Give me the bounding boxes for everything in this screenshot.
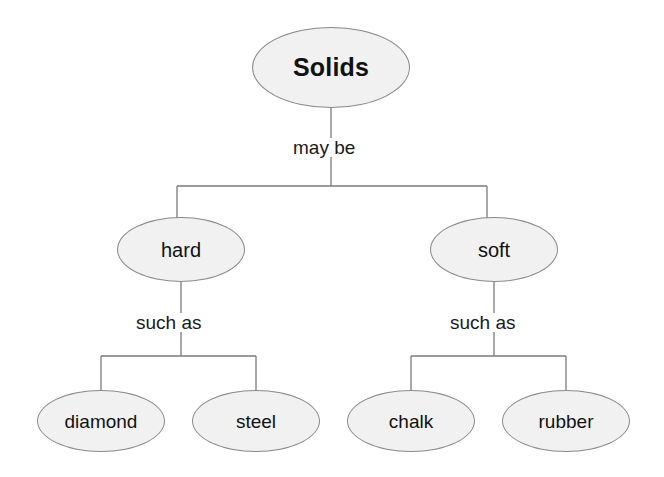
node-rubber[interactable]: rubber xyxy=(502,390,630,452)
node-chalk-label: chalk xyxy=(389,412,433,431)
node-rubber-label: rubber xyxy=(539,412,594,431)
node-soft-label: soft xyxy=(478,240,510,260)
node-hard[interactable]: hard xyxy=(117,217,245,282)
concept-map-canvas: Solids may be such as such as hard soft … xyxy=(0,0,664,477)
edge-label-may-be: may be xyxy=(290,138,358,157)
node-soft[interactable]: soft xyxy=(430,217,558,282)
node-steel-label: steel xyxy=(236,412,276,431)
node-diamond-label: diamond xyxy=(65,412,138,431)
node-solids[interactable]: Solids xyxy=(252,27,410,108)
node-hard-label: hard xyxy=(161,240,201,260)
node-steel[interactable]: steel xyxy=(192,390,320,452)
edge-label-such-as-left: such as xyxy=(133,313,204,332)
edge-label-such-as-right: such as xyxy=(447,313,518,332)
node-chalk[interactable]: chalk xyxy=(347,390,475,452)
node-solids-label: Solids xyxy=(293,55,369,80)
node-diamond[interactable]: diamond xyxy=(37,390,165,452)
